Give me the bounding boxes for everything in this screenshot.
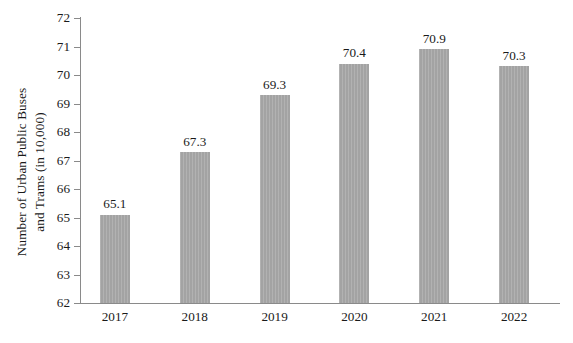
bar-value-label: 70.9: [404, 32, 464, 45]
y-axis-tick: [74, 218, 81, 219]
bar[interactable]: [100, 215, 130, 303]
x-axis-tick-label: 2019: [240, 310, 310, 323]
y-axis-tick-label: 70: [44, 68, 70, 81]
y-axis-tick-label: 65: [44, 211, 70, 224]
bar-value-label: 69.3: [245, 78, 305, 91]
bar[interactable]: [260, 95, 290, 303]
x-axis-tick-label: 2017: [80, 310, 150, 323]
bar[interactable]: [339, 64, 369, 303]
y-axis-tick: [74, 132, 81, 133]
plot-area: 65.167.369.370.470.970.3: [81, 18, 560, 303]
x-axis-tick-label: 2018: [160, 310, 230, 323]
bar[interactable]: [419, 49, 449, 303]
x-axis-tick-label: 2021: [399, 310, 469, 323]
x-axis-tick-label: 2022: [479, 310, 549, 323]
bar-group: 70.4: [339, 18, 369, 303]
y-axis-tick: [74, 161, 81, 162]
bar-group: 69.3: [260, 18, 290, 303]
y-axis-tick-label: 62: [44, 296, 70, 309]
bar-value-label: 70.3: [484, 49, 544, 62]
bar-value-label: 70.4: [324, 46, 384, 59]
y-axis-tick: [74, 246, 81, 247]
y-axis-tick-label: 66: [44, 182, 70, 195]
y-axis-tick: [74, 75, 81, 76]
y-axis-tick-labels: 7271706968676665646362: [38, 0, 70, 343]
y-axis-tick-label: 71: [44, 40, 70, 53]
x-axis-tick-label: 2020: [319, 310, 389, 323]
bar-value-label: 65.1: [85, 197, 145, 210]
y-axis-tick-label: 64: [44, 239, 70, 252]
y-axis-tick-label: 68: [44, 125, 70, 138]
bar-group: 70.9: [419, 18, 449, 303]
bar-group: 67.3: [180, 18, 210, 303]
y-axis-tick: [74, 189, 81, 190]
bar-value-label: 67.3: [165, 135, 225, 148]
y-axis-tick-label: 72: [44, 11, 70, 24]
bar-chart: Number of Urban Public Buses and Trams (…: [0, 0, 573, 343]
y-axis-tick-label: 63: [44, 268, 70, 281]
y-axis-tick: [74, 18, 81, 19]
y-axis-tick-label: 67: [44, 154, 70, 167]
bar[interactable]: [180, 152, 210, 303]
y-axis-tick: [74, 303, 81, 304]
y-axis-title-line-1: Number of Urban Public Buses: [13, 87, 31, 255]
y-axis-tick: [74, 104, 81, 105]
bar-group: 70.3: [499, 18, 529, 303]
bar[interactable]: [499, 66, 529, 303]
y-axis-tick: [74, 275, 81, 276]
bar-group: 65.1: [100, 18, 130, 303]
x-axis-line: [81, 303, 560, 304]
y-axis-tick: [74, 47, 81, 48]
y-axis-tick-label: 69: [44, 97, 70, 110]
